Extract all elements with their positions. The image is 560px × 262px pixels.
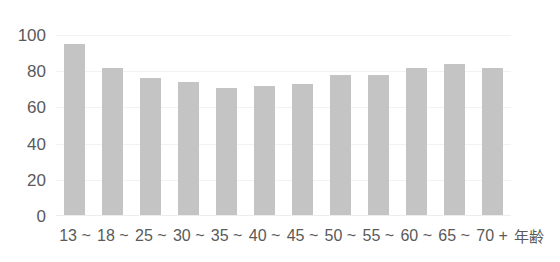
x-axis-tick-label: 55 ~ xyxy=(359,228,397,244)
x-axis-tick-label: 35 ~ xyxy=(208,228,246,244)
y-axis-tick-label: 40 xyxy=(0,135,46,152)
bar xyxy=(102,68,123,216)
x-axis-tick-label: 13 ~ xyxy=(56,228,94,244)
x-axis-tick-label: 50 ~ xyxy=(321,228,359,244)
x-axis-tick-label: 30 ~ xyxy=(170,228,208,244)
x-axis: 13 ~18 ~25 ~30 ~35 ~40 ~45 ~50 ~55 ~60 ~… xyxy=(56,228,511,252)
x-axis-tick-label: 40 ~ xyxy=(246,228,284,244)
bar-series xyxy=(56,35,511,216)
y-axis-tick-label: 80 xyxy=(0,63,46,80)
cropped-title-sliver xyxy=(40,0,510,5)
y-axis-tick-label: 0 xyxy=(0,208,46,225)
bar xyxy=(178,82,199,216)
x-axis-tick-label: 25 ~ xyxy=(132,228,170,244)
bar xyxy=(292,84,313,216)
bar xyxy=(216,88,237,217)
plot-area xyxy=(56,35,511,216)
bar xyxy=(64,44,85,216)
axis-baseline xyxy=(56,215,511,216)
bar xyxy=(406,68,427,216)
bar xyxy=(254,86,275,216)
y-axis-tick-label: 20 xyxy=(0,171,46,188)
bar xyxy=(368,75,389,216)
x-axis-tick-label: 60 ~ xyxy=(397,228,435,244)
x-axis-tick-label: 45 ~ xyxy=(283,228,321,244)
bar xyxy=(444,64,465,216)
x-axis-title: 年齢 xyxy=(514,229,544,244)
bar xyxy=(330,75,351,216)
bar xyxy=(140,78,161,216)
x-axis-tick-label: 70 + xyxy=(473,228,511,244)
x-axis-tick-label: 18 ~ xyxy=(94,228,132,244)
y-axis: 020406080100 xyxy=(0,35,46,216)
y-axis-tick-label: 100 xyxy=(0,27,46,44)
x-axis-tick-label: 65 ~ xyxy=(435,228,473,244)
bar xyxy=(482,68,503,216)
chart-screenshot: 020406080100 13 ~18 ~25 ~30 ~35 ~40 ~45 … xyxy=(0,0,560,262)
y-axis-tick-label: 60 xyxy=(0,99,46,116)
